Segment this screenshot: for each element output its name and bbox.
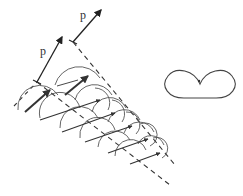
wavelet-arcs <box>18 67 168 158</box>
diagram-canvas <box>0 0 243 196</box>
cardioid-pattern <box>165 70 235 98</box>
momentum-label-p2: p <box>80 8 86 23</box>
momentum-label-p1: p <box>40 44 46 59</box>
cardioid-center-dot <box>198 80 200 82</box>
dashed-boundary-left <box>14 82 37 106</box>
momentum-arrow-1 <box>33 37 62 84</box>
dashed-boundary-lower <box>37 82 170 185</box>
